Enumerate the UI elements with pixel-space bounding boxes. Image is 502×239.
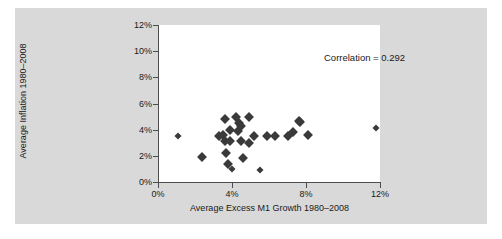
x-axis-tick <box>232 183 233 188</box>
scatter-point <box>221 148 231 158</box>
y-axis-line <box>158 25 159 183</box>
plot-area: Correlation = 0.292 <box>158 25 380 182</box>
scatter-point <box>303 130 313 140</box>
x-axis-title: Average Excess M1 Growth 1980–2008 <box>158 203 381 213</box>
y-axis-tick-label: 0% <box>139 177 152 187</box>
y-axis-tick <box>153 156 158 157</box>
y-axis-title: Average Inflation 1980–2008 <box>18 21 28 181</box>
y-axis-tick <box>153 25 158 26</box>
x-axis-tick <box>380 183 381 188</box>
scatter-point <box>256 167 263 174</box>
x-axis-tick-label: 0% <box>151 189 164 199</box>
y-axis-tick <box>153 104 158 105</box>
y-axis-tick-label: 8% <box>139 72 152 82</box>
y-axis-tick <box>153 77 158 78</box>
scatter-point <box>295 117 305 127</box>
x-axis-tick-label: 8% <box>299 189 312 199</box>
y-axis-tick-labels: 0%2%4%6%8%10%12% <box>112 0 152 239</box>
x-axis-tick <box>158 183 159 188</box>
scatter-point <box>225 136 235 146</box>
y-axis-tick-label: 2% <box>139 151 152 161</box>
figure-root: Correlation = 0.292 0%2%4%6%8%10%12% 0%4… <box>0 0 502 239</box>
x-axis-tick-label: 12% <box>371 189 389 199</box>
scatter-point <box>220 114 230 124</box>
scatter-point <box>228 165 235 172</box>
x-axis-tick <box>306 183 307 188</box>
scatter-point <box>238 153 248 163</box>
y-axis-tick <box>153 51 158 52</box>
y-axis-tick-label: 6% <box>139 99 152 109</box>
x-axis-line <box>158 182 381 183</box>
scatter-point <box>197 152 207 162</box>
scatter-point <box>244 112 254 122</box>
y-axis-tick <box>153 130 158 131</box>
scatter-point <box>270 131 280 141</box>
y-axis-tick-label: 4% <box>139 125 152 135</box>
scatter-point <box>373 125 380 132</box>
y-axis-tick-label: 12% <box>134 20 152 30</box>
correlation-annotation: Correlation = 0.292 <box>324 52 405 63</box>
scatter-points-layer <box>158 25 380 182</box>
scatter-point <box>175 133 182 140</box>
x-axis-tick-label: 4% <box>225 189 238 199</box>
y-axis-tick-label: 10% <box>134 46 152 56</box>
